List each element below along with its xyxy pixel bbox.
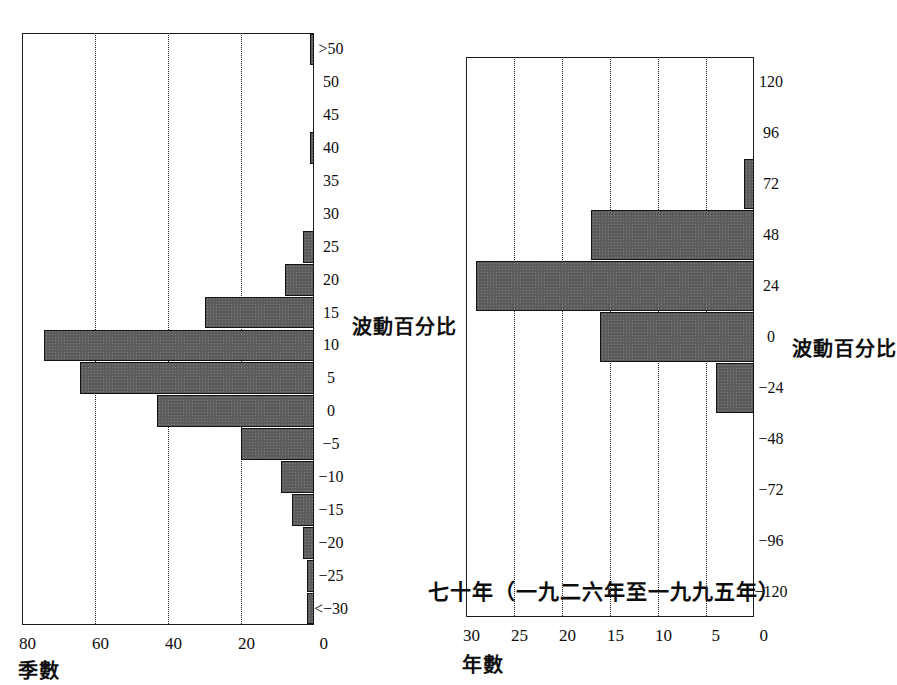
category-axis-tick-label: 72: [745, 175, 797, 193]
gridline: [514, 57, 515, 617]
category-axis-tick-label: 30: [305, 205, 357, 223]
category-axis-tick-label: −25: [305, 567, 357, 585]
category-axis-tick-label: −24: [745, 379, 797, 397]
category-axis-tick-label: 45: [305, 106, 357, 124]
category-axis-tick-label: 0: [305, 402, 357, 420]
value-axis-title: 季數: [18, 655, 60, 684]
bar: [476, 261, 754, 311]
category-axis-tick-label: 20: [305, 271, 357, 289]
bar: [80, 362, 314, 394]
value-axis-tick-label: 0: [738, 626, 768, 646]
category-axis-tick-label: 96: [745, 124, 797, 142]
gridline: [562, 57, 563, 617]
chart-right: 051015202530−120−96−72−48−24024487296120…: [416, 0, 832, 685]
bar: [157, 395, 314, 427]
category-axis-tick-label: 10: [305, 336, 357, 354]
bar: [600, 312, 754, 362]
category-axis-tick-label: 25: [305, 238, 357, 256]
category-axis-tick-label: 5: [305, 369, 357, 387]
category-axis-tick-label: 120: [745, 73, 797, 91]
category-axis-tick-label: −96: [745, 532, 797, 550]
category-axis-tick-label: −20: [305, 534, 357, 552]
gridline: [22, 33, 23, 625]
value-axis-tick-label: 80: [6, 634, 36, 654]
category-axis-tick-label: −48: [745, 430, 797, 448]
value-axis-tick-label: 25: [498, 626, 528, 646]
value-axis-tick-label: 0: [298, 634, 328, 654]
category-axis-tick-label: −10: [305, 468, 357, 486]
category-axis-tick-label: 35: [305, 172, 357, 190]
category-axis-tick-label: >50: [305, 40, 357, 58]
category-axis-tick-label: 15: [305, 304, 357, 322]
value-axis-tick-label: 20: [225, 634, 255, 654]
category-axis-tick-label: 24: [745, 277, 797, 295]
bar: [241, 428, 314, 460]
chart-title: 七十年（一九二六年至一九九五年）: [428, 575, 780, 605]
category-axis-tick-label: −72: [745, 481, 797, 499]
value-axis-tick-label: 20: [546, 626, 576, 646]
category-axis-tick-label: 0: [745, 328, 797, 346]
category-axis-tick-label: 48: [745, 226, 797, 244]
bar: [591, 210, 754, 260]
chart-left: 020406080<−30−25−20−15−10−50510152025303…: [0, 0, 416, 685]
value-axis-tick-label: 10: [642, 626, 672, 646]
category-axis-tick-label: 40: [305, 139, 357, 157]
category-axis-tick-label: 50: [305, 73, 357, 91]
value-axis-tick-label: 60: [79, 634, 109, 654]
category-axis-tick-label: −5: [305, 435, 357, 453]
value-axis-title: 年數: [462, 649, 504, 678]
bar: [205, 297, 315, 329]
category-axis-tick-label: −15: [305, 501, 357, 519]
gridline: [466, 57, 467, 617]
value-axis-tick-label: 30: [450, 626, 480, 646]
value-axis-tick-label: 15: [594, 626, 624, 646]
category-axis-tick-label: <−30: [305, 600, 357, 618]
value-axis-tick-label: 40: [152, 634, 182, 654]
value-axis-tick-label: 5: [690, 626, 720, 646]
bar: [44, 330, 314, 362]
category-axis-title: 波動百分比: [792, 333, 897, 362]
